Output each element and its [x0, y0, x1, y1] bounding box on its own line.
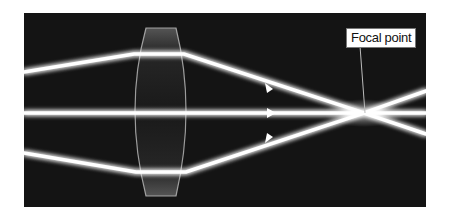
focal-point-label: Focal point [346, 28, 416, 48]
arrow-icon [267, 108, 276, 118]
arrow-icon [265, 133, 273, 143]
